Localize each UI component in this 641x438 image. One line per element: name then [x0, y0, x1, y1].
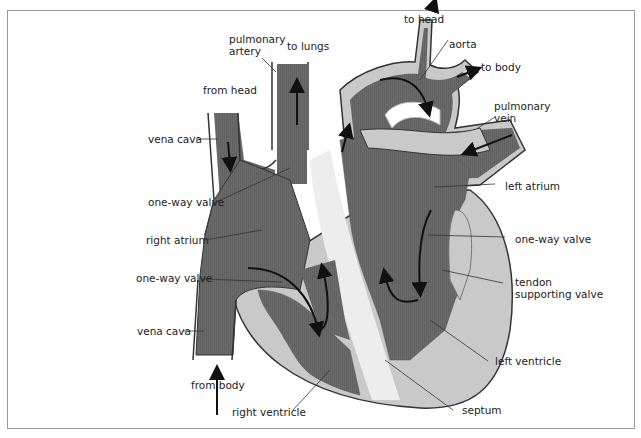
- label-pulmonary-artery-line2: artery: [229, 45, 286, 57]
- label-from-head: from head: [203, 84, 257, 96]
- label-to-body: to body: [481, 61, 521, 73]
- label-septum: septum: [462, 404, 502, 416]
- label-to-head: to head: [404, 13, 444, 25]
- label-one-way-valve-left: one-way valve: [136, 272, 212, 284]
- label-pulmonary-vein-line2: vein: [494, 112, 551, 124]
- label-right-ventricle: right ventricle: [232, 406, 306, 418]
- label-tendon-line2: supporting valve: [515, 288, 603, 300]
- label-right-atrium: right atrium: [146, 234, 209, 246]
- pulmonary-artery: [270, 62, 310, 184]
- arrow-to-head-icon: [432, 4, 434, 10]
- label-from-body: from body: [191, 379, 245, 391]
- label-vena-cava-bottom: vena cava: [137, 325, 191, 337]
- label-aorta: aorta: [449, 38, 477, 50]
- label-pulmonary-artery: pulmonary artery: [229, 33, 286, 57]
- heart-diagram: [0, 0, 641, 438]
- label-vena-cava-top: vena cava: [148, 133, 202, 145]
- label-tendon-supporting-valve: tendon supporting valve: [515, 276, 603, 300]
- label-left-ventricle: left ventricle: [495, 355, 561, 367]
- label-one-way-valve-upper: one-way valve: [148, 196, 224, 208]
- label-left-atrium: left atrium: [505, 180, 560, 192]
- label-pulmonary-artery-line1: pulmonary: [229, 33, 286, 45]
- label-tendon-line1: tendon: [515, 276, 603, 288]
- label-pulmonary-vein-line1: pulmonary: [494, 100, 551, 112]
- label-pulmonary-vein: pulmonary vein: [494, 100, 551, 124]
- label-to-lungs: to lungs: [287, 40, 329, 52]
- label-one-way-valve-right: one-way valve: [515, 233, 591, 245]
